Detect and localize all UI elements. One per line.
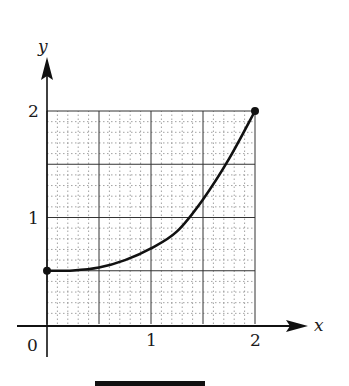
x-axis-label: x (314, 315, 324, 335)
endpoint-dot (43, 267, 51, 275)
endpoint-dot (251, 107, 259, 115)
y-tick-label-1: 1 (28, 208, 39, 228)
function-graph: y x 0 1 2 1 2 (0, 0, 349, 386)
y-tick-label-2: 2 (28, 101, 39, 121)
origin-label: 0 (27, 335, 38, 355)
x-tick-label-1: 1 (146, 330, 157, 350)
y-axis-label: y (37, 36, 48, 56)
x-tick-label-2: 2 (250, 330, 261, 350)
bottom-bar (95, 381, 205, 386)
